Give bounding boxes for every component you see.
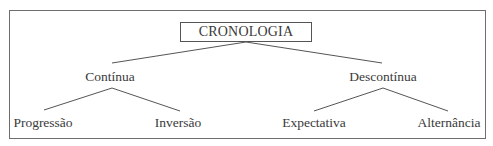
root-node-cronologia: CRONOLOGIA: [180, 22, 312, 42]
connector-root-descontinua: [246, 42, 382, 63]
leaf-inversao: Inversão: [155, 115, 201, 131]
connector-continua-progressao: [44, 88, 112, 110]
connector-descontinua-expectativa: [314, 88, 383, 111]
leaf-expectativa: Expectativa: [282, 115, 346, 131]
leaf-progressao: Progressão: [13, 115, 72, 131]
connector-descontinua-alternancia: [383, 88, 448, 111]
node-continua: Contínua: [85, 69, 135, 85]
leaf-alternancia: Alternância: [418, 115, 481, 131]
node-descontinua: Descontínua: [349, 69, 416, 85]
connector-root-continua: [112, 42, 246, 63]
connector-continua-inversao: [112, 88, 180, 111]
